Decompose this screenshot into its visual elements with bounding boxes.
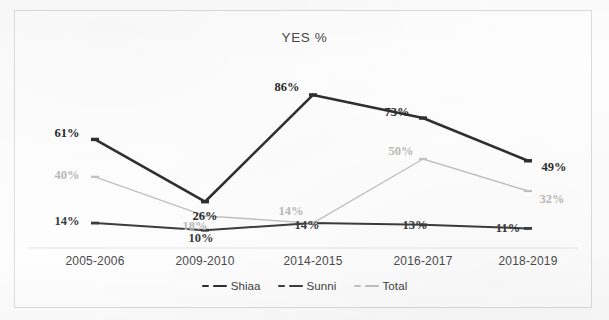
series-line-shiaa [95, 95, 528, 202]
x-axis-label-1: 2009-2010 [175, 254, 234, 268]
legend-label: Sunni [307, 280, 337, 292]
series-total [91, 159, 532, 223]
chart-legend: ShiaaSunniTotal [0, 280, 609, 292]
data-label-shiaa-0: 61% [55, 126, 80, 141]
legend-item-total[interactable]: Total [354, 280, 408, 292]
data-label-total-0: 40% [55, 167, 80, 182]
series-shiaa [91, 95, 532, 202]
series-line-total [95, 159, 528, 223]
data-label-sunni-4: 11% [496, 221, 520, 236]
data-label-total-4: 32% [540, 192, 565, 207]
data-label-total-1: 18% [183, 218, 208, 233]
x-axis-label-0: 2005-2006 [65, 254, 124, 268]
x-axis-label-4: 2018-2019 [498, 254, 557, 268]
x-axis-label-3: 2016-2017 [393, 254, 452, 268]
legend-line-icon [202, 281, 228, 291]
data-label-total-3: 50% [389, 144, 414, 159]
legend-item-shiaa[interactable]: Shiaa [202, 280, 261, 292]
x-axis-labels: 2005-20062009-20102014-20152016-20172018… [0, 254, 609, 274]
data-label-total-2: 14% [279, 204, 304, 219]
x-axis-label-2: 2014-2015 [283, 254, 342, 268]
data-label-sunni-2: 14% [295, 218, 320, 233]
data-label-sunni-3: 13% [403, 217, 428, 232]
data-label-shiaa-2: 86% [275, 79, 300, 94]
data-label-sunni-0: 14% [55, 214, 80, 229]
legend-line-icon [278, 281, 304, 291]
data-label-shiaa-4: 49% [542, 159, 567, 174]
legend-item-sunni[interactable]: Sunni [278, 280, 337, 292]
legend-line-icon [354, 281, 380, 291]
data-label-shiaa-3: 73% [385, 105, 410, 120]
legend-label: Total [383, 280, 408, 292]
legend-label: Shiaa [231, 280, 261, 292]
chart-container: YES % 2005-20062009-20102014-20152016-20… [0, 0, 609, 320]
